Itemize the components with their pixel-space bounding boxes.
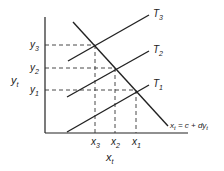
t1-label: T1 xyxy=(153,78,163,91)
x-axis-label: xt xyxy=(105,151,115,165)
t3-line xyxy=(68,15,149,61)
dashed-guides xyxy=(45,45,136,133)
y1-label: y1 xyxy=(29,84,39,97)
x3-label: x3 xyxy=(90,136,100,149)
t1-line xyxy=(67,85,149,132)
y2-label: y2 xyxy=(29,62,39,75)
t3-label: T3 xyxy=(153,8,163,21)
y-axis-label: yt xyxy=(10,74,20,88)
diagram-canvas: T3 T2 T1 y3 y2 y1 yt x3 x2 x1 xt xt = c … xyxy=(0,0,224,171)
equation-label: xt = c + dyt xyxy=(169,121,208,131)
t2-label: T2 xyxy=(153,44,163,57)
x2-label: x2 xyxy=(110,136,120,149)
demand-line xyxy=(73,22,168,126)
y3-label: y3 xyxy=(29,39,39,52)
x1-label: x1 xyxy=(131,136,141,149)
